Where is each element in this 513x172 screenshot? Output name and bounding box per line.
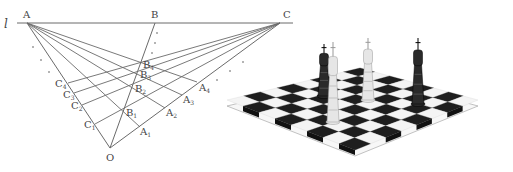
ellipsis-dot: [40, 59, 42, 61]
ellipsis-dot: [48, 71, 50, 73]
point-label-A4: A4: [198, 82, 210, 94]
ellipsis-dot: [216, 79, 218, 81]
ray-A-to-A1: [27, 23, 140, 127]
ray-C-to-C2: [82, 23, 280, 105]
dark-queen-piece: [411, 38, 425, 107]
chess-board-illustration: [227, 38, 478, 156]
point-label-B4: B4: [143, 59, 154, 71]
line-AO: [27, 23, 110, 148]
ray-A-to-A4: [27, 23, 197, 82]
perspective-diagram: lABCOC1C2C3C4A1A2A3A4B1B2B3B4: [4, 9, 293, 163]
point-label-A3: A3: [182, 94, 194, 106]
point-label-C: C: [283, 9, 291, 20]
point-label-C1: C1: [84, 119, 95, 131]
figure-canvas: lABCOC1C2C3C4A1A2A3A4B1B2B3B4: [0, 0, 513, 172]
point-label-A2: A2: [165, 107, 177, 119]
point-label-O: O: [106, 152, 114, 163]
point-label-B2: B2: [135, 83, 146, 95]
ray-A-to-A3: [27, 23, 182, 95]
ellipsis-dot: [156, 32, 158, 34]
point-label-A1: A1: [139, 126, 151, 138]
ellipsis-dot: [242, 61, 244, 63]
point-label-B1: B1: [126, 107, 137, 119]
figure: lABCOC1C2C3C4A1A2A3A4B1B2B3B4: [0, 0, 513, 172]
point-label-A: A: [22, 9, 31, 20]
ellipsis-dot: [151, 52, 153, 54]
ellipsis-dot: [154, 42, 156, 44]
line-BO: [110, 23, 155, 148]
ellipsis-dot: [229, 70, 231, 72]
point-label-C3: C3: [63, 89, 75, 101]
point-label-B: B: [151, 9, 158, 20]
ray-C-to-C3: [74, 23, 280, 93]
ellipsis-dot: [32, 46, 34, 48]
line-label: l: [4, 17, 8, 31]
point-label-C2: C2: [71, 100, 83, 112]
